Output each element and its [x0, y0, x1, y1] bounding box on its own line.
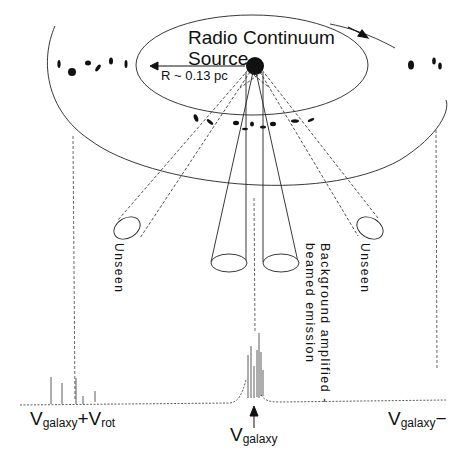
title-line2: Source	[188, 49, 248, 68]
maser-spots-front	[193, 114, 315, 131]
radius-label: R ~ 0.13 pc	[161, 69, 228, 82]
beamed-label-line1: Background amplified -	[318, 243, 331, 404]
title-line1: Radio Continuum	[188, 28, 335, 47]
maser-spots-left	[57, 58, 127, 77]
cone-unseen-left	[110, 212, 144, 243]
rotation-arrow-icon	[348, 27, 368, 38]
spectrum-label-center: Vgalaxy	[230, 425, 277, 445]
maser-spots-right	[408, 58, 442, 70]
unseen-label-right: Unseen	[359, 243, 371, 293]
cone-center-right	[263, 254, 299, 272]
cone-center-left	[211, 254, 247, 272]
spectrum-label-left: Vgalaxy+Vrot	[30, 409, 115, 429]
unseen-label-left: Unseen	[113, 243, 125, 293]
spectrum-label-right: Vgalaxy−	[388, 409, 446, 429]
maser-disk-diagram	[0, 0, 469, 463]
cone-unseen-right	[353, 212, 387, 243]
spectrum-trace	[20, 333, 446, 405]
beamed-label-line2: beamed emission	[303, 243, 316, 363]
